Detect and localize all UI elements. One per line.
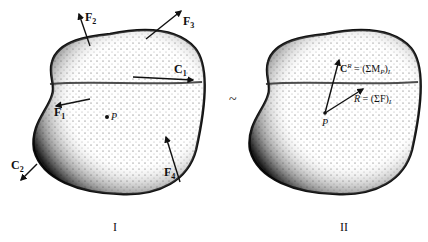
point-P [105,115,109,119]
body-panel-II [249,30,420,194]
ridge-line [266,82,418,84]
label-P-panel-II: P [321,117,328,128]
caption-panel-II: II [340,220,348,234]
label-P-panel-I: P [110,111,117,122]
label-F2: F2 [85,10,96,26]
label-C2: C2 [11,158,24,174]
rigid-body-equivalence-diagram: F2 F3 C1 F1 P C2 F4 I ~ CR = (ΣMP)I R = … [0,0,428,242]
ridge-line [50,82,202,84]
equivalence-symbol: ~ [229,92,237,107]
caption-panel-I: I [113,220,117,234]
label-F3: F3 [183,14,194,30]
